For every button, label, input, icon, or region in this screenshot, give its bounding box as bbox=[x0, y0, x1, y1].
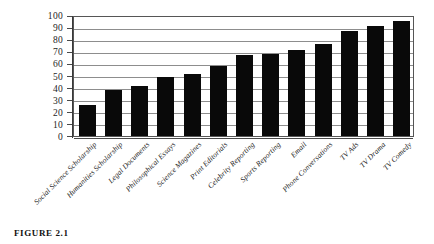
bar bbox=[393, 21, 410, 136]
x-axis-tick-label: Celebrity Reporting bbox=[205, 140, 256, 191]
bar bbox=[157, 77, 174, 136]
bar bbox=[341, 31, 358, 136]
bar bbox=[79, 105, 96, 136]
y-axis-tick-label: 0 bbox=[58, 132, 63, 142]
bar bbox=[262, 54, 279, 136]
y-axis-tick-label: 80 bbox=[53, 35, 63, 45]
plot-area bbox=[73, 16, 414, 137]
y-axis-labels: 0102030405060708090100 bbox=[0, 16, 72, 137]
bar bbox=[288, 50, 305, 136]
x-axis-tick-label: Email bbox=[289, 140, 309, 160]
x-axis-tick-label: Phone Conversations bbox=[281, 140, 335, 194]
y-axis-tick-label: 100 bbox=[48, 11, 63, 21]
bar bbox=[210, 66, 227, 136]
figure-container: 0102030405060708090100 Social Science Sc… bbox=[0, 0, 434, 244]
bar bbox=[236, 55, 253, 136]
y-axis-tick-label: 60 bbox=[53, 59, 63, 69]
y-axis-tick-label: 20 bbox=[53, 108, 63, 118]
y-axis-tick-label: 30 bbox=[53, 96, 63, 106]
figure-caption: FIGURE 2.1 bbox=[14, 228, 69, 238]
x-axis-tick-label: TV Ads bbox=[339, 140, 361, 162]
bar bbox=[367, 26, 384, 136]
y-axis-tick-label: 90 bbox=[53, 23, 63, 33]
bar bbox=[184, 74, 201, 136]
y-axis-tick-label: 10 bbox=[53, 120, 63, 130]
x-axis-labels: Social Science ScholarshipHumanities Sch… bbox=[73, 137, 414, 222]
bar bbox=[131, 86, 148, 136]
bar bbox=[105, 90, 122, 136]
y-axis-tick-label: 70 bbox=[53, 47, 63, 57]
y-axis-tick-label: 40 bbox=[53, 84, 63, 94]
y-axis-tick-label: 50 bbox=[53, 72, 63, 82]
bars-layer bbox=[74, 17, 413, 136]
bar bbox=[315, 44, 332, 136]
